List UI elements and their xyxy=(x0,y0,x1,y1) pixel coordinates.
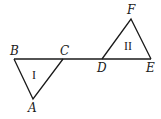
label-e: E xyxy=(145,61,155,75)
label-d: D xyxy=(96,61,107,75)
geometry-diagram: B C A D E F I II xyxy=(0,0,161,119)
label-triangle-ii: II xyxy=(124,39,132,53)
label-c: C xyxy=(60,44,69,58)
label-b: B xyxy=(9,44,19,58)
label-triangle-i: I xyxy=(32,68,36,82)
triangle-i-sides xyxy=(14,59,63,99)
label-a: A xyxy=(27,101,37,115)
label-f: F xyxy=(126,3,136,17)
